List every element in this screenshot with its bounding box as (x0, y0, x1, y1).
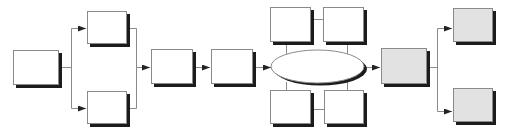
node-start (13, 50, 59, 85)
node-step-3 (151, 49, 193, 84)
node-output-bottom (453, 88, 493, 122)
hub-ellipse (271, 50, 364, 83)
hub-ellipse-shadow (274, 53, 367, 86)
node-step-4 (211, 49, 253, 84)
node-satellite-bottom-left (270, 90, 311, 124)
node-branch-bottom (87, 91, 127, 124)
node-branch-top (87, 11, 127, 44)
node-satellite-top-left (270, 7, 311, 42)
node-output-top (453, 8, 493, 42)
flowchart-canvas (0, 0, 516, 132)
connector-layer (0, 0, 516, 132)
node-satellite-top-right (323, 7, 364, 42)
node-satellite-bottom-right (324, 90, 364, 124)
node-output (381, 48, 427, 84)
